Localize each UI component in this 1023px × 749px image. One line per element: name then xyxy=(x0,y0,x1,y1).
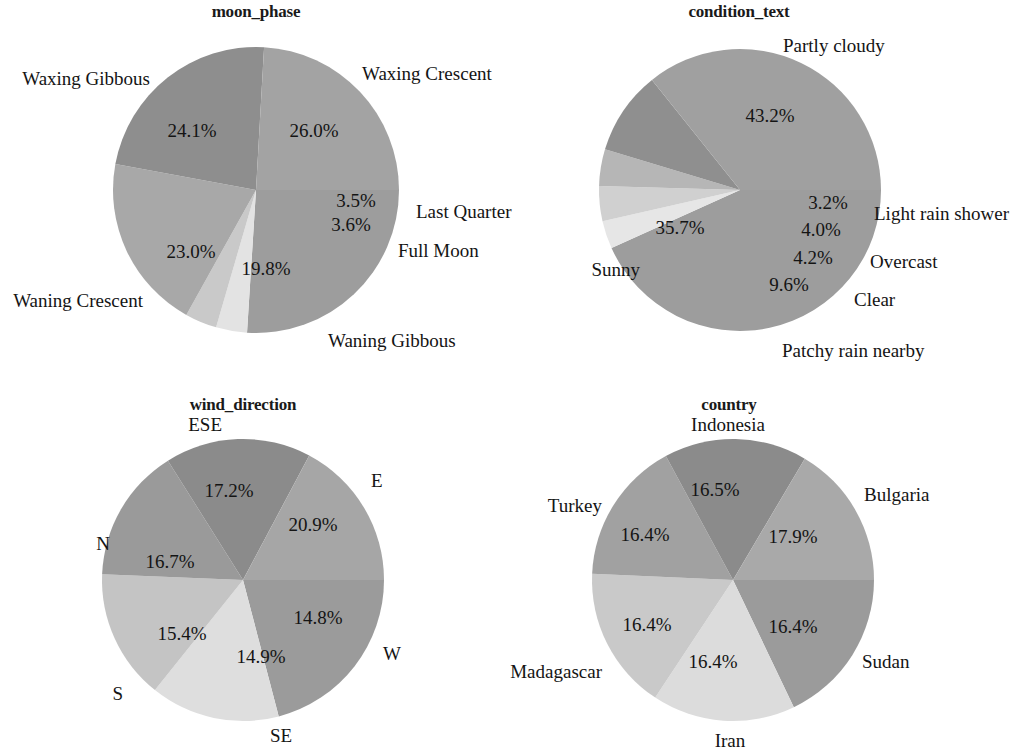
pie-value-label-indonesia: 16.5% xyxy=(690,479,739,501)
pie-value-label-madagascar: 16.4% xyxy=(622,614,671,636)
pie-value-label-turkey: 16.4% xyxy=(620,524,669,546)
pie-category-label-madagascar: Madagascar xyxy=(510,661,602,683)
pie-value-label-bulgaria: 17.9% xyxy=(768,526,817,548)
chart-title-country: country xyxy=(701,395,756,415)
pie-country xyxy=(0,0,1023,749)
pie-category-label-bulgaria: Bulgaria xyxy=(864,484,929,506)
pie-category-label-sudan: Sudan xyxy=(862,651,910,673)
pie-category-label-iran: Iran xyxy=(715,730,746,749)
pie-category-label-indonesia: Indonesia xyxy=(691,414,765,436)
pie-category-label-turkey: Turkey xyxy=(548,495,602,517)
pie-value-label-sudan: 16.4% xyxy=(768,616,817,638)
pie-value-label-iran: 16.4% xyxy=(688,651,737,673)
pie-chart-figure: moon_phase26.0%3.5%3.6%19.8%23.0%24.1%Wa… xyxy=(0,0,1023,749)
